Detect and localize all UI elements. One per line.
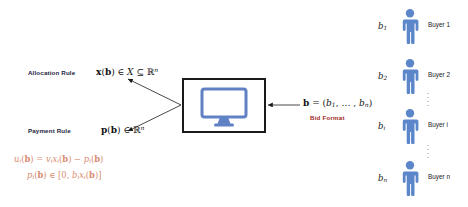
buyer-name-label: Buyer i [428, 121, 448, 128]
bid-format-formula: b = (b1, … , bn) [303, 98, 372, 108]
mechanism-box [182, 78, 266, 133]
buyer-name-label: Buyer 2 [428, 71, 450, 78]
allocation-rule-caption: Allocation Rule [28, 69, 75, 76]
payment-rule-caption: Payment Rule [28, 127, 71, 134]
buyer-bid-label: b2 [378, 71, 387, 81]
buyer-bid-label: bn [378, 173, 387, 183]
buyer-name-label: Buyer 1 [428, 21, 450, 28]
dot: · [426, 104, 430, 108]
buyer-ellipsis: · · · · [426, 144, 430, 160]
auction-mechanism-diagram: Allocation Rule x(b) ∈ X ⊆ ℝn Payment Ru… [0, 0, 468, 207]
buyer-row: bn Buyer n [378, 158, 468, 198]
person-icon [400, 58, 420, 94]
allocation-rule-formula: x(b) ∈ X ⊆ ℝn [96, 66, 158, 77]
buyer-bid-label: bi [378, 121, 385, 131]
payment-bounds-equation: pi(b) ∈ [0, bixi(b)] [27, 170, 101, 180]
desktop-monitor-icon [184, 80, 264, 131]
buyer-row: bi Buyer i [378, 106, 468, 146]
payment-rule-formula: p(b) ∈ ℝn [101, 124, 144, 135]
buyer-row: b1 Buyer 1 [378, 6, 468, 46]
bid-format-caption: Bid Format [310, 114, 345, 121]
utility-equation: ui(b) = vixi(b) − pi(b) [14, 154, 103, 164]
buyer-row: b2 Buyer 2 [378, 56, 468, 96]
person-icon [400, 160, 420, 196]
allocation-rule-arrow [128, 79, 181, 105]
buyer-name-label: Buyer n [428, 173, 450, 180]
person-icon [400, 8, 420, 44]
person-icon [400, 108, 420, 144]
dot: · [426, 156, 430, 160]
buyer-ellipsis: · · · · [426, 92, 430, 108]
buyer-bid-label: b1 [378, 21, 387, 31]
